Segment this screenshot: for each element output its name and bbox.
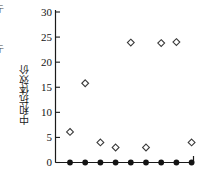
data-point-diamond — [97, 139, 104, 146]
chart-figure: 亍 ： 亍 · ▌ ▏ - 中和抗体效价 30 25 20 15 10 5 0 — [0, 0, 202, 181]
data-point-diamond — [173, 39, 180, 46]
data-point-circle — [143, 160, 149, 166]
data-point-diamond — [112, 144, 119, 151]
data-point-circle — [98, 160, 104, 166]
data-point-diamond — [143, 144, 150, 151]
data-point-circle — [158, 160, 164, 166]
data-point-circle — [189, 160, 195, 166]
scatter-plot-area — [0, 0, 202, 181]
data-series-open-diamond — [67, 39, 195, 151]
axis-lines — [56, 10, 194, 163]
data-point-circle — [113, 160, 119, 166]
data-point-diamond — [67, 128, 74, 135]
data-point-circle — [174, 160, 180, 166]
data-point-diamond — [127, 39, 134, 46]
data-point-circle — [128, 160, 134, 166]
y-axis-ticks — [56, 12, 61, 163]
data-point-diamond — [188, 139, 195, 146]
data-point-circle — [82, 160, 88, 166]
data-point-circle — [67, 160, 73, 166]
data-series-filled-circle — [67, 160, 194, 166]
data-point-diamond — [158, 40, 165, 47]
data-point-diamond — [82, 80, 89, 87]
